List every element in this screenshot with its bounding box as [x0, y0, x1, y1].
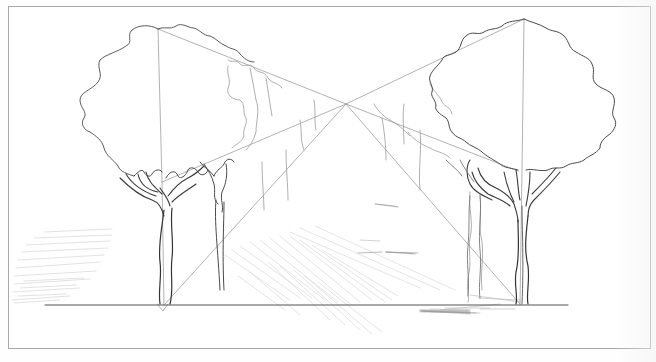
ground-hatching-center [225, 226, 455, 334]
sketch-canvas [0, 0, 656, 362]
ground-hatching-left [12, 229, 112, 303]
background-trees-right [374, 84, 483, 302]
ground-hatching-right [360, 204, 520, 314]
left-midground-tree [200, 159, 234, 290]
background-trees-left [228, 60, 316, 210]
perspective-sketch [0, 0, 656, 362]
right-foreground-tree [430, 19, 616, 304]
perspective-lines [157, 19, 524, 311]
ground-dashes [375, 204, 470, 313]
